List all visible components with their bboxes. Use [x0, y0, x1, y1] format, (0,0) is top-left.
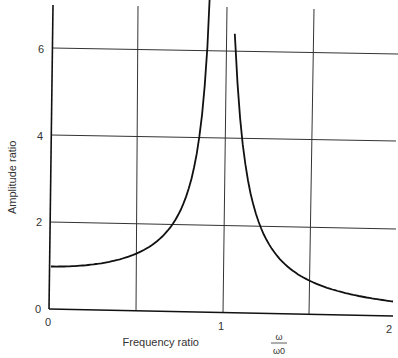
y-tick-2: 2 — [36, 216, 42, 228]
y-axis — [49, 5, 53, 309]
grid-v-1.5 — [309, 9, 314, 314]
axes — [49, 5, 393, 316]
x-tick-0: 0 — [45, 316, 51, 328]
curve-below-resonance — [51, 0, 210, 267]
y-tick-0: 0 — [35, 303, 41, 315]
amplitude-ratio-chart: 6 4 2 0 0 1 2 Amplitude ratio Frequency … — [0, 0, 398, 358]
y-axis-label: Amplitude ratio — [6, 141, 18, 214]
x-axis-label: Frequency ratio ω ω0 — [123, 332, 287, 356]
y-tick-labels: 6 4 2 0 — [35, 43, 44, 315]
x-axis-fraction-denominator: ω0 — [273, 346, 285, 356]
x-axis — [49, 309, 393, 316]
grid-lines — [50, 6, 398, 314]
x-axis-fraction-numerator: ω — [275, 332, 282, 342]
grid-h-2 — [50, 222, 396, 229]
x-axis-label-text: Frequency ratio — [123, 336, 199, 348]
x-tick-labels: 0 1 2 — [45, 316, 392, 335]
grid-h-6 — [52, 48, 398, 54]
x-tick-2: 2 — [386, 323, 392, 335]
y-tick-6: 6 — [38, 43, 44, 55]
y-tick-4: 4 — [37, 130, 43, 142]
grid-h-4 — [51, 135, 396, 141]
curve — [51, 0, 393, 302]
x-tick-1: 1 — [218, 320, 224, 332]
grid-v-1 — [223, 7, 227, 313]
grid-v-0.5 — [136, 6, 138, 311]
curve-above-resonance — [235, 34, 393, 302]
